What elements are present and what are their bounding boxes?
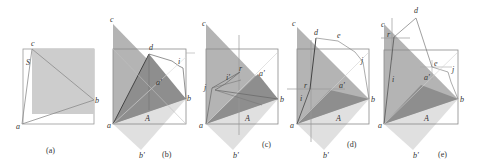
origami-figure: c S b a (a) c d i a' b A a b' (b): [0, 0, 481, 166]
point-label-A: A: [244, 114, 250, 123]
point-label-c: c: [292, 19, 296, 28]
point-label-b-prime: b': [139, 151, 145, 160]
point-label-s: S: [26, 58, 30, 67]
point-label-a: a: [199, 121, 203, 130]
point-label-i: i: [392, 75, 394, 84]
panel-caption: (d): [347, 140, 357, 149]
point-label-a: a: [107, 121, 111, 130]
point-label-A: A: [423, 114, 429, 123]
point-label-b-prime: b': [233, 151, 239, 160]
point-label-b-prime: b': [413, 151, 419, 160]
point-label-c: c: [202, 19, 206, 28]
point-label-b: b: [187, 94, 191, 103]
point-label-b: b: [280, 95, 284, 104]
point-label-A: A: [335, 114, 341, 123]
point-label-e: e: [337, 31, 341, 40]
panel-b: c d i a' b A a b' (b): [107, 15, 195, 160]
point-label-c: c: [381, 20, 385, 29]
panel-e: c d r e j a' i b A a b' (e): [378, 6, 464, 160]
panel-a: c S b a (a): [16, 39, 99, 155]
point-label-c: c: [110, 15, 114, 24]
point-label-j: j: [451, 65, 455, 74]
panel-d: c d e j a' r i b A a b' (d): [287, 19, 375, 160]
point-label-i-prime: i': [226, 73, 230, 82]
point-label-d: d: [149, 43, 154, 52]
point-label-i: i: [178, 57, 180, 66]
panel-caption: (a): [46, 146, 55, 155]
point-label-b-prime: b': [323, 151, 329, 160]
point-label-A: A: [144, 114, 150, 123]
point-label-a-prime: a': [259, 69, 265, 78]
point-label-d: d: [314, 28, 319, 37]
point-label-a-prime: a': [339, 81, 345, 90]
folded-flap: [32, 49, 94, 114]
point-label-e: e: [434, 59, 438, 68]
panel-caption: (e): [438, 150, 447, 159]
point-label-c: c: [31, 39, 35, 48]
point-label-b: b: [95, 96, 99, 105]
point-label-a-prime: a': [424, 73, 430, 82]
panel-caption: (b): [162, 150, 172, 159]
point-label-b: b: [371, 95, 375, 104]
point-label-a: a: [290, 121, 294, 130]
point-label-a: a: [16, 122, 20, 131]
point-label-i: i: [300, 94, 302, 103]
point-label-b: b: [460, 95, 464, 104]
panel-caption: (c): [262, 140, 271, 149]
panel-c: c r i' a' j b A a b' (c): [199, 19, 284, 160]
point-label-a-prime: a': [156, 78, 162, 87]
point-label-a: a: [378, 121, 382, 130]
point-label-d: d: [414, 6, 419, 15]
crease-line: [394, 18, 416, 37]
